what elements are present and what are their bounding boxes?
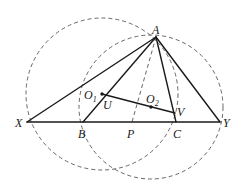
point-o1 — [100, 92, 103, 95]
label-o1: O1 — [84, 88, 97, 104]
label-c: C — [173, 127, 182, 141]
label-o2: O2 — [146, 92, 159, 108]
label-x: X — [14, 116, 23, 130]
label-v: V — [177, 105, 186, 119]
segment-o1v — [102, 94, 175, 113]
segment-ax — [27, 37, 156, 122]
label-y: Y — [223, 116, 231, 130]
label-b: B — [78, 127, 86, 141]
segment-ab — [83, 37, 156, 122]
geometry-diagram: A X Y B P C U V O1 O2 — [0, 0, 245, 190]
label-u: U — [103, 98, 113, 112]
label-a: A — [151, 23, 160, 37]
label-p: P — [126, 127, 135, 141]
